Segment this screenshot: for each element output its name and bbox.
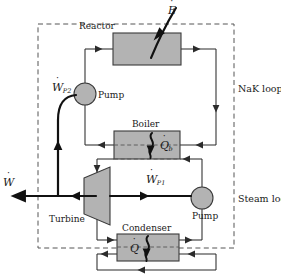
overdot-w: ˙	[6, 172, 12, 183]
condenser-label: Condenser	[122, 224, 171, 233]
pump-steam-label: Pump	[192, 212, 218, 221]
overdot-e: ˙	[169, 0, 175, 11]
w-dot-symbol: ˙W	[3, 177, 14, 188]
steam-loop-label: Steam loop	[238, 194, 281, 204]
e-dot-symbol: ˙E	[168, 5, 176, 16]
qb-dot-symbol: ˙Qb	[160, 140, 173, 151]
figure-canvas: Reactor Boiler Condenser Turbine Pump Pu…	[0, 0, 281, 275]
overdot-wp1: ˙	[149, 169, 155, 180]
wp2-dot-symbol: ˙WP2	[52, 82, 72, 93]
pump-nak-body	[74, 83, 96, 105]
reactor-label: Reactor	[79, 22, 115, 31]
nak-loop-label: NaK loop	[238, 84, 281, 94]
reactor-box	[113, 33, 181, 65]
wp1-dot-symbol: ˙WP1	[146, 174, 166, 185]
cycle-diagram	[0, 0, 281, 275]
overdot-wp2: ˙	[55, 77, 61, 88]
turbine-label: Turbine	[49, 215, 85, 224]
overdot-qb: ˙	[161, 135, 167, 146]
overdot-q: ˙	[131, 238, 137, 249]
q-dot-symbol: ˙Q	[130, 243, 139, 254]
pump-steam-body	[191, 187, 213, 209]
pump-nak-label: Pump	[98, 91, 124, 100]
boiler-label: Boiler	[132, 120, 159, 129]
